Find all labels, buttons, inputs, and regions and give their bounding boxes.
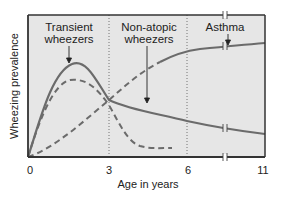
asthma-label: Asthma [206, 21, 246, 33]
transient-label-line2: wheezers [43, 33, 93, 45]
transient-label-line1: Transient [45, 21, 93, 33]
y-axis-title: Wheezing prevalence [8, 33, 20, 139]
x-tick-0: 0 [27, 164, 33, 176]
x-axis-title: Age in years [117, 178, 179, 190]
x-tick-11: 11 [257, 164, 268, 176]
nonatopic-label-line2: wheezers [123, 33, 173, 45]
x-tick-3: 3 [106, 164, 112, 176]
nonatopic-label-line1: Non-atopic [121, 21, 177, 33]
x-tick-6: 6 [185, 164, 191, 176]
wheezing-prevalence-chart: Transient wheezers Non-atopic wheezers A… [0, 0, 281, 199]
